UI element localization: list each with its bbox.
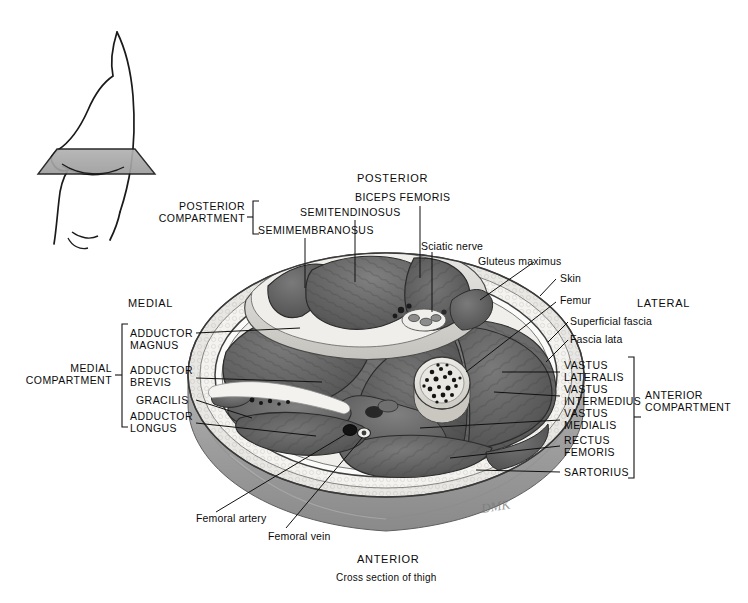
- figure-canvas: DMK: [0, 0, 748, 603]
- label-vastus-lateralis-line2: LATERALIS: [564, 371, 624, 384]
- label-biceps-femoris: BICEPS FEMORIS: [355, 191, 451, 204]
- label-femoral-vein: Femoral vein: [268, 530, 331, 543]
- leg-orientation-drawing: [38, 32, 155, 249]
- cutting-plane: [38, 149, 155, 174]
- label-adductor-longus-line2: LONGUS: [130, 422, 177, 435]
- label-gluteus-maximus: Gluteus maximus: [478, 255, 561, 268]
- posterior-compartment-label-line1: POSTERIOR: [150, 200, 245, 213]
- label-vastus-lateralis-line1: VASTUS: [564, 359, 608, 372]
- label-adductor-longus-line1: ADDUCTOR: [130, 410, 193, 423]
- orientation-lateral: LATERAL: [637, 297, 690, 310]
- label-fascia-lata: Fascia lata: [570, 333, 622, 346]
- label-semimembranosus: SEMIMEMBRANOSUS: [258, 224, 374, 237]
- orientation-medial: MEDIAL: [128, 297, 173, 310]
- cross-section-body: DMK: [188, 247, 584, 531]
- label-rectus-femoris-line1: RECTUS: [564, 434, 610, 447]
- label-skin: Skin: [560, 272, 581, 285]
- label-vastus-medialis-line2: MEDIALIS: [564, 419, 617, 432]
- orientation-anterior: ANTERIOR: [357, 553, 419, 566]
- label-rectus-femoris-line2: FEMORIS: [564, 446, 615, 459]
- label-vastus-intermedius-line1: VASTUS: [564, 383, 608, 396]
- femur-bone: [414, 357, 470, 423]
- anterior-compartment-label-line2: COMPARTMENT: [645, 401, 731, 414]
- figure-caption: Cross section of thigh: [336, 572, 437, 585]
- anterior-compartment-label-line1: ANTERIOR: [645, 389, 703, 402]
- label-superficial-fascia: Superficial fascia: [570, 315, 652, 328]
- label-femur: Femur: [560, 294, 591, 307]
- thigh-cross-section-artwork: DMK: [0, 0, 748, 603]
- label-vastus-intermedius-line2: INTERMEDIUS: [564, 395, 641, 408]
- medial-compartment-label-line1: MEDIAL: [14, 362, 112, 375]
- label-adductor-brevis-line2: BREVIS: [130, 376, 171, 389]
- label-adductor-magnus-line1: ADDUCTOR: [130, 327, 193, 340]
- label-sartorius: SARTORIUS: [564, 466, 629, 479]
- label-femoral-artery: Femoral artery: [196, 512, 266, 525]
- femoral-artery-lumen: [343, 425, 357, 436]
- medial-compartment-label-line2: COMPARTMENT: [14, 374, 112, 387]
- label-semitendinosus: SEMITENDINOSUS: [300, 206, 401, 219]
- posterior-compartment-label-line2: COMPARTMENT: [150, 212, 245, 225]
- label-sciatic-nerve: Sciatic nerve: [421, 240, 483, 253]
- label-gracilis: GRACILIS: [136, 394, 189, 407]
- label-adductor-brevis-line1: ADDUCTOR: [130, 364, 193, 377]
- label-adductor-magnus-line2: MAGNUS: [130, 339, 179, 352]
- orientation-posterior: POSTERIOR: [357, 172, 428, 185]
- label-vastus-medialis-line1: VASTUS: [564, 407, 608, 420]
